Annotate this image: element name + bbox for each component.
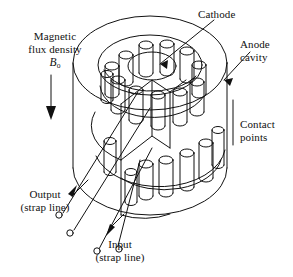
label-magnetic-flux-density: Magnetic flux density: [12, 30, 98, 55]
cathode-leader-line: [160, 20, 214, 64]
flux-symbol-b: Bo: [50, 56, 61, 68]
lower-post-ring: [104, 127, 224, 206]
cylinder-bottom-arc: [73, 168, 227, 215]
anode-cavity-line1: Anode: [240, 38, 270, 50]
label-cathode: Cathode: [198, 8, 254, 21]
post: [180, 149, 194, 191]
output-line1: Output: [29, 188, 60, 200]
post: [159, 156, 173, 197]
input-line1: Input: [108, 238, 132, 250]
strap-ring-lower: [96, 150, 225, 187]
post: [129, 86, 143, 124]
post-ring-ellipse: [98, 35, 202, 95]
post: [212, 127, 224, 169]
label-anode-cavity: Anode cavity: [240, 38, 292, 63]
flux-symbol-subscript: o: [57, 61, 61, 70]
top-face-inner: [98, 35, 202, 95]
post: [119, 51, 133, 86]
magnetic-flux-line2: flux density: [12, 43, 98, 56]
anode-cavity-line2: cavity: [240, 51, 292, 64]
contact-points-line2: points: [240, 131, 292, 144]
post: [139, 160, 153, 200]
upper-post-ring: [101, 40, 206, 130]
output-line2: (strap line): [4, 201, 86, 214]
interior-back-arc: [91, 112, 121, 160]
label-contact-points: Contact points: [240, 118, 292, 143]
label-output-strap-line: Output (strap line): [4, 188, 86, 213]
input-line2: (strap line): [72, 251, 168, 264]
contact-points-line1: Contact: [240, 118, 275, 130]
post: [151, 91, 165, 130]
post: [199, 139, 213, 182]
label-input-strap-line: Input (strap line): [72, 238, 168, 263]
terminal-output-lower: [67, 230, 73, 236]
flux-arrow-head: [46, 106, 56, 120]
post: [173, 88, 187, 126]
label-flux-symbol: Bo: [12, 56, 98, 71]
magnetic-flux-line1: Magnetic: [34, 30, 76, 42]
post: [139, 41, 153, 77]
input-leader-arrowhead: [106, 224, 115, 236]
